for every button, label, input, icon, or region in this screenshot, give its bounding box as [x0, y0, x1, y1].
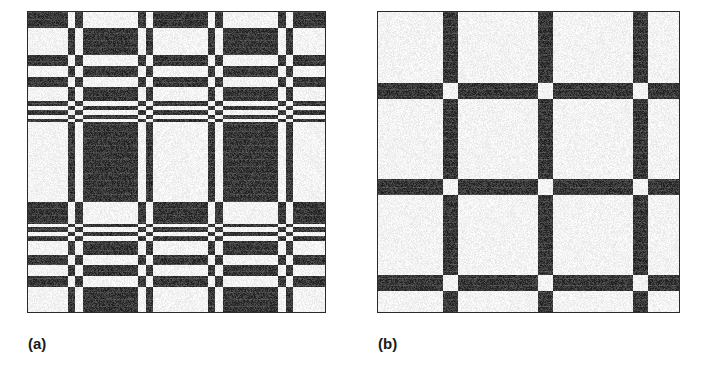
figure-panel-a: (a): [27, 11, 327, 365]
texture-image-a: [27, 11, 326, 313]
panel-caption-b: (b): [378, 335, 397, 352]
texture-image-b: [377, 11, 680, 313]
figure-root: (a) (b): [0, 0, 708, 365]
texture-canvas-b: [378, 12, 680, 313]
panel-caption-a: (a): [28, 335, 46, 352]
figure-panel-b: (b): [377, 11, 681, 365]
texture-canvas-a: [28, 12, 326, 313]
